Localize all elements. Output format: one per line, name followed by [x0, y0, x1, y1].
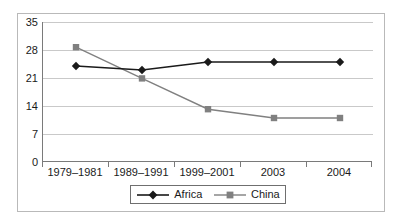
data-point-china-1: [139, 75, 145, 81]
chart-figure: 35 28 21 14 7 0 1979–1981 1989–1991 1999…: [0, 0, 401, 224]
legend-label-china: China: [251, 189, 280, 200]
data-point-africa-2: [204, 58, 212, 66]
y-tick-label-0: 0: [10, 157, 38, 168]
x-tick-label-1999-2001: 1999–2001: [174, 166, 240, 178]
markers-africa: [72, 58, 344, 74]
plot-area: [42, 22, 372, 162]
y-tick-label-14: 14: [10, 101, 38, 112]
markers-china: [73, 44, 343, 121]
data-point-africa-0: [72, 62, 80, 70]
x-tick-label-2003: 2003: [240, 166, 306, 178]
y-tick-label-28: 28: [10, 45, 38, 56]
x-axis: 1979–1981 1989–1991 1999–2001 2003 2004: [42, 166, 372, 182]
chart-legend: Africa China: [130, 185, 286, 204]
legend-item-china: China: [213, 189, 280, 201]
y-tick-label-21: 21: [10, 73, 38, 84]
data-point-africa-4: [336, 58, 344, 66]
diamond-marker-icon: [136, 189, 170, 201]
x-tick-label-2004: 2004: [306, 166, 372, 178]
data-point-china-3: [271, 115, 277, 121]
y-tick-label-35: 35: [10, 17, 38, 28]
data-point-china-4: [337, 115, 343, 121]
data-point-africa-1: [138, 66, 146, 74]
data-point-china-2: [205, 106, 211, 112]
x-tick-label-1979-1981: 1979–1981: [42, 166, 108, 178]
x-tick-label-1989-1991: 1989–1991: [108, 166, 174, 178]
square-marker-icon: [213, 189, 247, 201]
data-point-china-0: [73, 44, 79, 50]
legend-item-africa: Africa: [136, 189, 202, 201]
series-canvas: [43, 22, 373, 162]
y-tick-label-7: 7: [10, 129, 38, 140]
y-axis: 35 28 21 14 7 0: [8, 22, 38, 162]
legend-label-africa: Africa: [174, 189, 202, 200]
data-point-africa-3: [270, 58, 278, 66]
